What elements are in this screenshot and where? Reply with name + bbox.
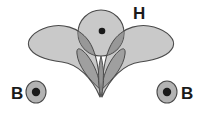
diagram-canvas: H B B [0, 0, 202, 115]
boron-nucleus-dot-left [32, 88, 40, 96]
hydrogen-nucleus-dot [99, 28, 106, 35]
hydrogen-label: H [133, 4, 145, 23]
boron-nucleus-dot-right [163, 88, 171, 96]
orbital-overlap-diagram: H B B [0, 0, 202, 115]
boron-label-right: B [181, 84, 193, 103]
boron-label-left: B [11, 84, 23, 103]
